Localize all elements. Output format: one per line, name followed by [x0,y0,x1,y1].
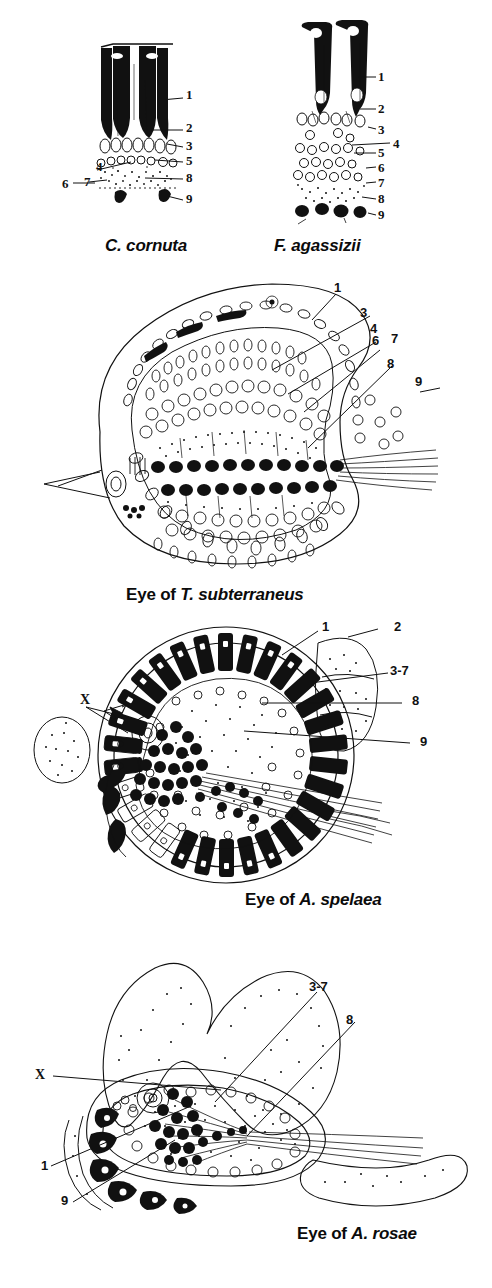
label-t-subterraneus-1: 1 [334,281,341,294]
label-t-subterraneus-7: 7 [391,332,398,345]
label-a-spelaea-9: 9 [420,735,427,748]
label-a-spelaea-2: 2 [394,620,401,633]
panel-f-agassizii [280,15,410,225]
label-a-spelaea-8: 8 [412,694,419,707]
label-c-cornuta-8: 8 [186,171,193,184]
a-rosae-drawing [25,930,475,1220]
panel-a-rosae [25,930,475,1220]
label-a-rosae-8: 8 [346,1013,353,1026]
label-t-subterraneus-6: 6 [372,334,379,347]
label-c-cornuta-9: 9 [186,192,193,205]
label-a-spelaea-3-7: 3-7 [390,664,409,677]
caption-t-subterraneus: Eye of T. subterraneus [126,585,304,605]
label-c-cornuta-3: 3 [186,139,193,152]
label-t-subterraneus-9: 9 [415,375,422,388]
caption-c-cornuta: C. cornuta [105,236,187,256]
caption-a-spelaea: Eye of A. spelaea [245,890,381,910]
label-a-spelaea-1: 1 [322,620,329,633]
label-c-cornuta-4: 4 [96,160,103,173]
label-a-rosae-x: X [35,1068,45,1082]
label-f-agassizii-7: 7 [378,176,385,189]
label-c-cornuta-7: 7 [84,175,91,188]
label-f-agassizii-9: 9 [378,208,385,221]
a-spelaea-drawing [30,615,450,895]
t-subterraneus-drawing [40,272,440,572]
panel-t-subterraneus [40,272,440,572]
label-f-agassizii-6: 6 [378,161,385,174]
caption-a-spelaea-prefix: Eye of [245,890,299,909]
label-c-cornuta-5: 5 [186,154,193,167]
label-a-rosae-9: 9 [61,1194,68,1207]
caption-t-subterraneus-prefix: Eye of [126,585,180,604]
label-c-cornuta-6: 6 [62,177,69,190]
caption-a-rosae-prefix: Eye of [297,1224,351,1243]
label-f-agassizii-3: 3 [378,123,385,136]
label-f-agassizii-2: 2 [378,102,385,115]
caption-c-cornuta-species: C. cornuta [105,236,187,255]
label-c-cornuta-2: 2 [186,121,193,134]
f-agassizii-drawing [280,15,410,225]
caption-f-agassizii-species: F. agassizii [274,236,360,255]
panel-a-spelaea [30,615,450,895]
label-t-subterraneus-3: 3 [360,306,367,319]
label-a-spelaea-x: X [80,693,90,707]
caption-a-rosae-species: A. rosae [351,1224,417,1243]
figure-plate: 1 2 3 5 8 9 4 6 7 C. cornuta [0,0,492,1288]
caption-a-spelaea-species: A. spelaea [299,890,381,909]
label-a-rosae-3-7: 3-7 [309,980,328,993]
label-a-rosae-1: 1 [41,1159,48,1172]
caption-a-rosae: Eye of A. rosae [297,1224,417,1244]
label-f-agassizii-5: 5 [378,146,385,159]
label-c-cornuta-1: 1 [186,88,193,101]
label-t-subterraneus-8: 8 [387,357,394,370]
label-f-agassizii-8: 8 [378,192,385,205]
caption-f-agassizii: F. agassizii [274,236,360,256]
caption-t-subterraneus-species: T. subterraneus [180,585,303,604]
label-f-agassizii-4: 4 [393,137,400,150]
label-f-agassizii-1: 1 [378,70,385,83]
